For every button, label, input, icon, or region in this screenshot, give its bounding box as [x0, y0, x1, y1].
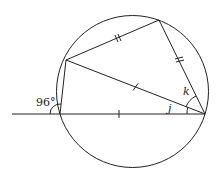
angle-arc-j	[187, 107, 188, 114]
geometry-diagram: 96° j k	[0, 0, 218, 180]
double-tick-DB-2	[176, 60, 184, 62]
label-j: j	[165, 102, 172, 115]
segment-CD	[66, 20, 159, 60]
tick-mark-CB	[133, 84, 138, 91]
label-k: k	[183, 85, 190, 98]
label-96-degrees: 96°	[36, 96, 56, 109]
segment-AC	[60, 60, 66, 114]
double-tick-DB-1	[175, 57, 183, 59]
